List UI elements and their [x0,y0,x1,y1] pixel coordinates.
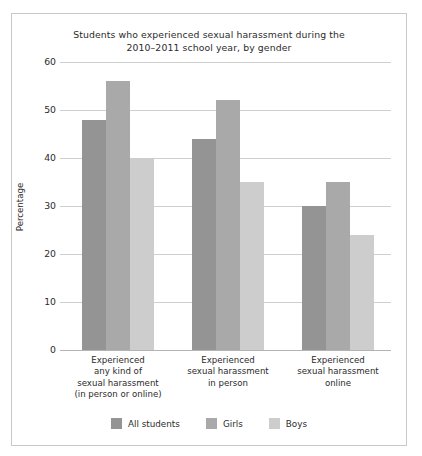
legend-item-all-students[interactable]: All students [111,418,180,429]
y-tick-label-0: 0 [22,344,56,355]
category-label-2: Experiencedsexual harassmentin person [166,355,290,389]
legend-swatch-boys [269,418,280,429]
category-label-1-line-4: (in person or online) [56,389,180,400]
legend-item-girls[interactable]: Girls [206,418,243,429]
bar-group-1 [82,62,154,350]
category-label-1: Experiencedany kind ofsexual harassment(… [56,355,180,401]
y-tick-label-50: 50 [22,104,56,115]
bar-all-students-group-1[interactable] [82,120,106,350]
category-label-1-line-1: Experienced [56,355,180,366]
chart-title-line-1: Students who experienced sexual harassme… [12,28,406,41]
y-tick-label-30: 30 [22,200,56,211]
category-label-3-line-1: Experienced [276,355,400,366]
category-label-1-line-2: any kind of [56,366,180,377]
legend-label-all-students: All students [128,419,180,429]
chart-legend: All studentsGirlsBoys [12,418,406,429]
legend-label-girls: Girls [223,419,243,429]
bar-boys-group-2[interactable] [240,182,264,350]
bar-all-students-group-2[interactable] [192,139,216,350]
category-label-3-line-2: sexual harassment [276,366,400,377]
chart-card: Students who experienced sexual harassme… [11,13,407,446]
category-label-3: Experiencedsexual harassmentonline [276,355,400,389]
bar-all-students-group-3[interactable] [302,206,326,350]
bar-girls-group-3[interactable] [326,182,350,350]
bar-group-3 [302,62,374,350]
legend-swatch-girls [206,418,217,429]
legend-swatch-all-students [111,418,122,429]
y-tick-label-20: 20 [22,248,56,259]
bar-girls-group-1[interactable] [106,81,130,350]
bar-boys-group-3[interactable] [350,235,374,350]
chart-title: Students who experienced sexual harassme… [12,28,406,54]
bar-group-2 [192,62,264,350]
legend-label-boys: Boys [286,419,307,429]
bar-girls-group-2[interactable] [216,100,240,350]
legend-item-boys[interactable]: Boys [269,418,307,429]
y-tick-label-40: 40 [22,152,56,163]
bar-boys-group-1[interactable] [130,158,154,350]
plot-area: Percentage 0102030405060 Experiencedany … [60,62,391,351]
category-label-2-line-3: in person [166,378,290,389]
category-label-3-line-3: online [276,378,400,389]
chart-title-line-2: 2010–2011 school year, by gender [12,41,406,54]
y-tick-label-60: 60 [22,56,56,67]
category-label-1-line-3: sexual harassment [56,378,180,389]
category-label-2-line-1: Experienced [166,355,290,366]
y-tick-label-10: 10 [22,296,56,307]
category-label-2-line-2: sexual harassment [166,366,290,377]
gridline-0 [60,350,391,351]
